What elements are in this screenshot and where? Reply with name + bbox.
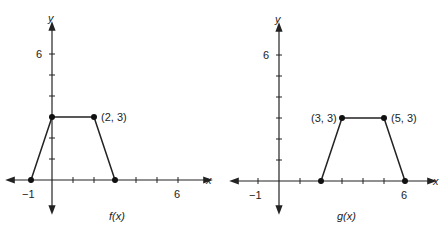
x-tick-6: 6 bbox=[174, 188, 180, 200]
trapezoid-g bbox=[321, 118, 405, 181]
y-tick-6: 6 bbox=[36, 48, 42, 60]
figure: y x 6 −1 6 (2, 3) f(x) bbox=[0, 0, 446, 229]
point-label-3-3: (3, 3) bbox=[311, 112, 337, 124]
x-axis-label: x bbox=[205, 174, 212, 186]
x-tick-6: 6 bbox=[401, 189, 407, 201]
caption-f: f(x) bbox=[109, 210, 125, 222]
y-axis-label: y bbox=[47, 12, 55, 24]
x-tick-neg1: −1 bbox=[249, 189, 262, 201]
chart-f: y x 6 −1 6 (2, 3) f(x) bbox=[10, 12, 212, 222]
x-axis-label: x bbox=[432, 175, 439, 187]
y-axis-label: y bbox=[274, 13, 282, 25]
caption-g: g(x) bbox=[337, 210, 356, 222]
chart-g: y x 6 −1 6 (3, 3) (5, 3) g(x) bbox=[234, 13, 439, 222]
y-tick-6: 6 bbox=[263, 49, 269, 61]
x-tick-neg1: −1 bbox=[22, 188, 35, 200]
trapezoid-f bbox=[31, 117, 115, 180]
point-label-5-3: (5, 3) bbox=[391, 112, 417, 124]
point-label-2-3: (2, 3) bbox=[101, 111, 127, 123]
